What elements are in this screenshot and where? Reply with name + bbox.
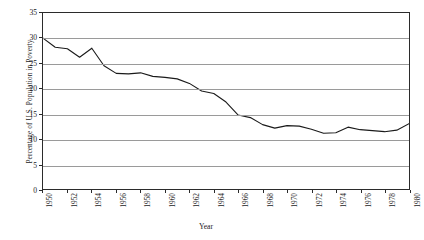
x-tick-label-1950: 1950	[45, 193, 54, 208]
y-tick-mark-30	[39, 37, 42, 38]
y-tick-mark-25	[39, 63, 42, 64]
x-tick-mark-1970	[287, 190, 288, 193]
x-tick-mark-1966	[238, 190, 239, 193]
x-tick-label-1958: 1958	[143, 193, 152, 208]
x-tick-mark-1950	[42, 190, 43, 193]
y-tick-mark-35	[39, 12, 42, 13]
gridline-y-5	[43, 166, 409, 167]
y-tick-mark-20	[39, 88, 42, 89]
poverty-rate-polyline	[43, 38, 409, 133]
gridline-y-30	[43, 38, 409, 39]
y-tick-label-15: 15	[11, 109, 37, 118]
y-tick-mark-15	[39, 114, 42, 115]
x-tick-label-1964: 1964	[217, 193, 226, 208]
y-tick-mark-10	[39, 139, 42, 140]
x-tick-mark-1956	[116, 190, 117, 193]
x-tick-mark-1976	[361, 190, 362, 193]
y-tick-label-20: 20	[11, 84, 37, 93]
y-tick-label-30: 30	[11, 33, 37, 42]
x-tick-mark-1962	[189, 190, 190, 193]
x-tick-mark-1960	[165, 190, 166, 193]
poverty-rate-line-chart: Percentage of U.S. Population in Poverty…	[0, 0, 424, 240]
x-tick-mark-1980	[410, 190, 411, 193]
y-tick-mark-5	[39, 165, 42, 166]
y-tick-label-5: 5	[11, 160, 37, 169]
gridline-y-15	[43, 115, 409, 116]
x-axis-title: Year	[0, 222, 424, 231]
x-tick-mark-1958	[140, 190, 141, 193]
y-tick-label-0: 0	[11, 186, 37, 195]
x-tick-mark-1972	[312, 190, 313, 193]
gridline-y-25	[43, 64, 409, 65]
x-tick-label-1952: 1952	[70, 193, 79, 208]
x-tick-label-1970: 1970	[290, 193, 299, 208]
x-tick-label-1956: 1956	[119, 193, 128, 208]
x-tick-label-1962: 1962	[192, 193, 201, 208]
x-tick-mark-1974	[336, 190, 337, 193]
x-tick-label-1966: 1966	[241, 193, 250, 208]
x-tick-mark-1954	[91, 190, 92, 193]
gridline-y-10	[43, 140, 409, 141]
x-tick-label-1974: 1974	[339, 193, 348, 208]
x-tick-label-1954: 1954	[94, 193, 103, 208]
x-tick-label-1968: 1968	[266, 193, 275, 208]
y-tick-label-10: 10	[11, 135, 37, 144]
gridline-y-20	[43, 89, 409, 90]
x-tick-label-1960: 1960	[168, 193, 177, 208]
y-tick-label-25: 25	[11, 58, 37, 67]
x-tick-mark-1964	[214, 190, 215, 193]
x-tick-label-1972: 1972	[315, 193, 324, 208]
x-tick-label-1976: 1976	[364, 193, 373, 208]
plot-area	[42, 12, 410, 190]
x-axis-title-text: Year	[199, 222, 213, 231]
x-tick-label-1978: 1978	[388, 193, 397, 208]
x-tick-mark-1952	[67, 190, 68, 193]
x-tick-mark-1968	[263, 190, 264, 193]
x-tick-mark-1978	[385, 190, 386, 193]
x-tick-label-1980: 1980	[413, 193, 422, 208]
y-tick-label-35: 35	[11, 8, 37, 17]
